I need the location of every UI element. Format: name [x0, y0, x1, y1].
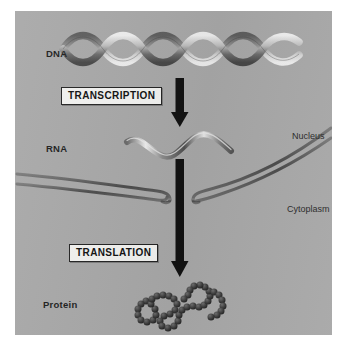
nucleus-label: Nucleus [292, 132, 325, 141]
rna-label: RNA [46, 144, 67, 154]
translation-arrow-graphic [171, 159, 189, 277]
diagram-panel: DNA RNA Protein Nucleus Cytoplasm TRANSC… [15, 11, 332, 335]
cytoplasm-label: Cytoplasm [287, 205, 330, 214]
transcription-step-box: TRANSCRIPTION [61, 87, 162, 105]
rna-single-strand-graphic [127, 133, 231, 157]
nuclear-envelope-graphic [17, 128, 331, 203]
folded-polypeptide-graphic [135, 282, 227, 332]
translation-step-box: TRANSLATION [69, 244, 158, 262]
transcription-arrow-graphic [171, 78, 189, 127]
dna-label: DNA [46, 49, 67, 59]
dna-double-helix-graphic [63, 36, 299, 63]
diagram-graphics [15, 11, 332, 335]
central-dogma-figure: DNA RNA Protein Nucleus Cytoplasm TRANSC… [0, 0, 343, 348]
protein-label: Protein [43, 300, 77, 310]
